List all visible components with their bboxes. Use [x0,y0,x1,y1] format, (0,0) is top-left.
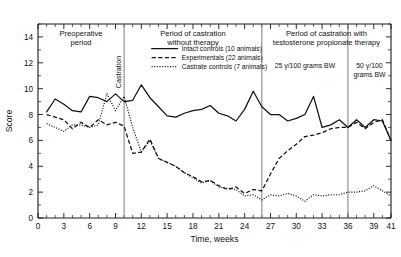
series-line [47,85,391,141]
x-tick-label: 27 [266,222,276,231]
y-tick-label: 6 [28,136,33,145]
annotation-castration-marker: Castration [115,56,123,88]
x-tick-label: 18 [188,222,198,231]
chart-figure: 0369121518212427303336394102468101214Tim… [0,0,401,257]
series-line [47,115,391,194]
x-tick-label: 30 [292,222,302,231]
chart-legend: Intact controls (10 animals)Experimental… [152,45,267,71]
x-tick-label: 24 [240,222,250,231]
x-tick-label: 15 [163,222,173,231]
y-tick-label: 12 [24,59,34,68]
chart-plot-area: 0369121518212427303336394102468101214Tim… [0,0,401,257]
x-tick-label: 9 [113,222,118,231]
y-tick-label: 4 [28,162,33,171]
annotation-dose-50-line1: 50 γ/100 [356,62,383,70]
annotation-castration-therapy-line1: Period of castration with [286,29,367,38]
x-tick-label: 33 [318,222,328,231]
x-tick-label: 39 [369,222,379,231]
y-tick-label: 10 [24,85,34,94]
data-series-group [47,85,391,201]
annotation-dose-25: 25 γ/100 grams BW [275,62,336,70]
x-tick-label: 41 [386,222,396,231]
y-tick-label: 14 [24,33,34,42]
x-axis-title: Time, weeks [191,234,239,244]
legend-label: Castrate controls (7 animals) [182,63,267,71]
x-tick-label: 21 [214,222,224,231]
legend-label: Experimentals (22 animals) [182,54,263,62]
y-axis-title: Score [4,110,14,133]
annotation-dose-50-line2: grams BW [353,71,386,79]
y-tick-label: 2 [28,188,33,197]
x-tick-label: 0 [36,222,41,231]
x-tick-label: 6 [87,222,92,231]
x-tick-label: 36 [343,222,353,231]
annotation-preoperative-line2: period [70,38,91,47]
annotation-castration-no-therapy-line1: Period of castration [160,29,225,38]
annotation-preoperative-line1: Preoperative [60,29,103,38]
chart-svg: 0369121518212427303336394102468101214Tim… [0,0,401,257]
x-tick-label: 3 [62,222,67,231]
legend-label: Intact controls (10 animals) [182,45,262,53]
x-tick-label: 12 [137,222,147,231]
y-tick-label: 8 [28,111,33,120]
y-tick-label: 0 [28,214,33,223]
annotation-castration-therapy-line2: testosterone propionate therapy [273,38,380,47]
